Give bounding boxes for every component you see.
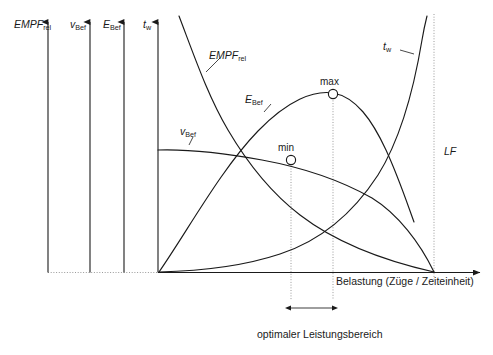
curve-label-t-w-sub: w — [385, 45, 392, 54]
curve-label-e-bef-group: EBef — [245, 93, 271, 112]
performance-range-diagram: EMPFrel vBef EBef tw Belastung (Züge / Z… — [0, 0, 493, 355]
axis-label-empf-rel-base: EMPF — [14, 18, 44, 30]
optimal-range-caption: optimaler Leistungsbereich — [257, 328, 383, 340]
curve-label-e-bef: EBef — [245, 93, 263, 107]
diagram-canvas: EMPFrel vBef EBef tw Belastung (Züge / Z… — [0, 0, 493, 355]
parallel-axes-group — [48, 22, 158, 273]
curve-e-bef — [159, 92, 414, 272]
curve-label-e-bef-sub: Bef — [252, 98, 263, 107]
axis-label-t-w-sub: w — [145, 23, 152, 32]
axis-label-e-bef: EBef — [103, 18, 121, 32]
curve-label-v-bef: vBef — [180, 125, 196, 139]
marker-min-group: min — [278, 142, 296, 165]
leader-e-bef — [264, 104, 271, 112]
curve-v-bef — [158, 150, 434, 272]
axis-label-v-bef-sub: Bef — [75, 23, 86, 32]
curve-label-v-bef-sub: Bef — [185, 130, 196, 139]
marker-min-label: min — [278, 142, 294, 153]
curve-label-empf-rel: EMPFrel — [209, 49, 247, 63]
x-axis-label: Belastung (Züge / Zeiteinheit) — [336, 275, 474, 287]
axis-label-t-w: tw — [143, 18, 152, 32]
marker-max-circle — [328, 89, 337, 98]
axis-label-v-bef: vBef — [70, 18, 86, 32]
axis-label-e-bef-sub: Bef — [110, 23, 121, 32]
capacity-limit-label: LF — [444, 145, 457, 157]
axis-label-empf-rel-sub: rel — [43, 23, 51, 32]
leader-t-w — [400, 50, 414, 54]
curve-label-t-w: tw — [383, 40, 392, 54]
axis-label-empf-rel: EMPFrel — [14, 18, 52, 32]
curve-label-v-bef-group: vBef — [180, 125, 196, 145]
curve-label-empf-rel-group: EMPFrel — [206, 49, 247, 72]
marker-min-circle — [286, 155, 295, 164]
marker-max-label: max — [320, 76, 339, 87]
marker-max-group: max — [320, 76, 339, 99]
curve-label-empf-rel-base: EMPF — [209, 49, 239, 61]
curve-label-t-w-group: tw — [383, 40, 414, 54]
curve-label-empf-rel-sub: rel — [238, 54, 246, 63]
